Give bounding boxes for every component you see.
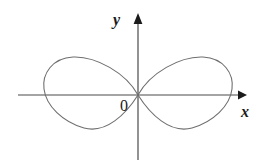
plot-canvas [0,0,265,160]
y-axis-arrowhead [134,13,143,24]
origin-label: 0 [120,98,128,114]
x-axis-label: x [241,104,249,120]
x-axis-arrowhead [238,90,247,99]
lemniscate-figure: y x 0 [0,0,265,160]
y-axis-label: y [113,12,120,28]
